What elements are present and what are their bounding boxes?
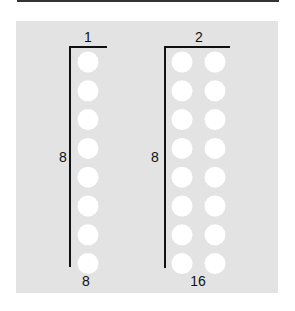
group-1-side-label: 8	[59, 149, 67, 165]
dot	[172, 196, 193, 217]
dot	[172, 109, 193, 130]
dot	[172, 52, 193, 73]
dot	[205, 167, 226, 188]
dot	[205, 52, 226, 73]
dot	[172, 80, 193, 101]
dot	[205, 138, 226, 159]
dot	[172, 224, 193, 245]
group-2: 2 8 16	[151, 29, 230, 289]
dot	[172, 253, 193, 274]
dot	[78, 224, 99, 245]
group-1-bottom-label: 8	[82, 273, 90, 289]
group-1-top-label: 1	[84, 29, 92, 45]
dot-array-diagram: 1 8 8 2 8 16	[0, 0, 295, 311]
dot	[78, 196, 99, 217]
group-2-bottom-label: 16	[190, 273, 206, 289]
group-1: 1 8 8	[59, 29, 107, 289]
dot	[78, 138, 99, 159]
dot	[172, 138, 193, 159]
dot	[78, 52, 99, 73]
dot	[78, 253, 99, 274]
dot	[205, 80, 226, 101]
dot	[205, 253, 226, 274]
group-2-side-label: 8	[151, 149, 159, 165]
dot	[205, 196, 226, 217]
dot	[78, 167, 99, 188]
dot	[172, 167, 193, 188]
dot	[78, 109, 99, 130]
dot	[205, 224, 226, 245]
dot	[78, 80, 99, 101]
group-2-top-label: 2	[195, 29, 203, 45]
dot	[205, 109, 226, 130]
